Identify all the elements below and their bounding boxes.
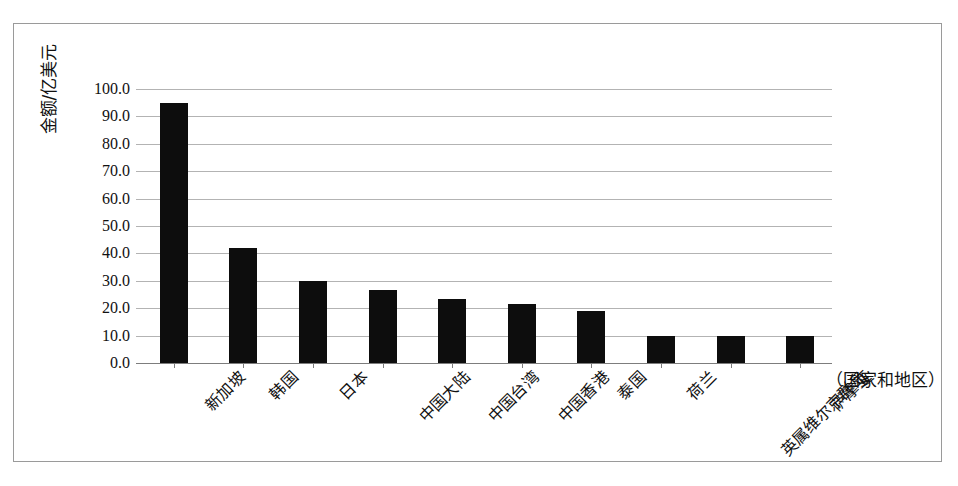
y-axis-tick-label: 80.0 [64,136,130,152]
x-axis-tick-label: 韩国 [266,368,301,403]
x-axis-line [136,363,832,364]
bar [438,299,466,363]
y-axis-tick-label: 30.0 [64,273,130,289]
bar [717,336,745,363]
bar [160,103,188,363]
y-axis-tick-label: 40.0 [64,245,130,261]
x-axis-tick-label: 荷兰 [684,368,719,403]
chart-frame: 金额/亿美元 100.090.080.070.060.050.040.030.0… [13,23,942,462]
x-axis-tick-label: 新加坡 [202,368,249,415]
gridline [136,199,832,200]
bar [577,311,605,363]
y-axis-tick-label: 10.0 [64,328,130,344]
y-axis-title: 金额/亿美元 [35,14,57,164]
y-axis-tick-label: 70.0 [64,163,130,179]
x-axis-tick-label: 中国香港 [555,368,613,426]
x-axis-tick-labels: 新加坡韩国日本中国大陆中国台湾中国香港泰国荷兰英属维尔京群岛萨摩亚 [136,368,836,478]
y-axis-tick-labels: 100.090.080.070.060.050.040.030.020.010.… [64,79,130,371]
bar [647,336,675,363]
x-axis-title: （国家和地区） [826,370,945,390]
plot-area [136,89,832,364]
gridline [136,171,832,172]
y-axis-tick-label: 90.0 [64,108,130,124]
bar [299,281,327,363]
bar [229,248,257,363]
y-axis-tick-label: 60.0 [64,191,130,207]
x-axis-tick-label: 中国台湾 [485,368,543,426]
x-axis-tick-label: 泰国 [614,368,649,403]
gridline [136,89,832,90]
bar [369,290,397,363]
gridline [136,226,832,227]
bar [508,304,536,363]
gridline [136,116,832,117]
y-axis-tick-label: 20.0 [64,300,130,316]
bar [786,336,814,363]
y-axis-tick-label: 100.0 [64,81,130,97]
x-axis-tick-label: 日本 [336,368,371,403]
y-axis-tick-label: 50.0 [64,218,130,234]
x-axis-tick-label: 中国大陆 [416,368,474,426]
gridline [136,144,832,145]
y-axis-tick-label: 0.0 [64,355,130,371]
